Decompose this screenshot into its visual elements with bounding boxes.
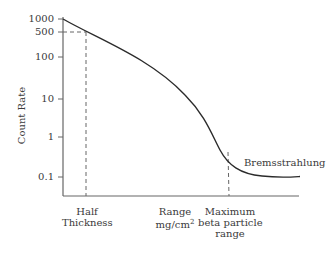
max-range-label: Maximum beta particle range <box>198 206 262 239</box>
tick-0-1: 0.1 <box>14 171 54 182</box>
tick-500: 500 <box>14 26 54 37</box>
tick-100: 100 <box>14 51 54 62</box>
max-range-guide <box>228 152 229 196</box>
y-axis-label: Count Rate <box>16 81 27 151</box>
range-label: Range mg/cm2 <box>150 206 200 230</box>
absorption-curve <box>63 19 300 177</box>
half-thickness-guide <box>63 32 86 196</box>
y-ticks <box>58 19 63 177</box>
half-thickness-label: Half Thickness <box>62 206 112 228</box>
bremsstrahlung-label: Bremsstrahlung <box>244 157 325 168</box>
tick-1000: 1000 <box>14 13 54 24</box>
